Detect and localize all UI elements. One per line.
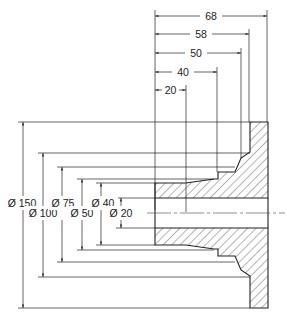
- dim-58: 58: [195, 28, 207, 40]
- dia-20: Ø 20: [110, 207, 133, 219]
- dim-20: 20: [165, 84, 177, 96]
- flange-drawing: 68 58 50 40 20 Ø 150 Ø 100 Ø 75 Ø 50 Ø 4…: [0, 0, 287, 328]
- dim-50: 50: [190, 47, 202, 59]
- extension-lines: [18, 10, 267, 308]
- dim-68: 68: [205, 10, 217, 22]
- horizontal-dimensions: [155, 16, 267, 90]
- dim-40: 40: [177, 66, 189, 78]
- part-section: [147, 122, 285, 308]
